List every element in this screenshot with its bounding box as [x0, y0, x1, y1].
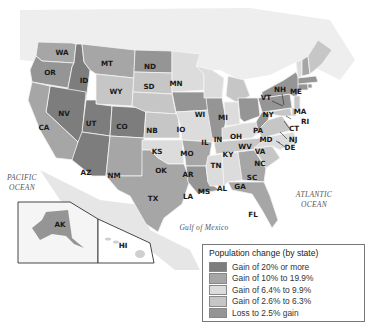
- label-CA: CA: [39, 123, 50, 132]
- label-PA: PA: [253, 126, 264, 135]
- label-LA: LA: [183, 192, 194, 201]
- pacific-ocean-line2: OCEAN: [9, 183, 36, 192]
- label-OR: OR: [44, 68, 56, 77]
- label-TX: TX: [148, 194, 159, 203]
- atlantic-ocean-line2: OCEAN: [301, 200, 328, 209]
- label-AZ: AZ: [81, 168, 92, 177]
- legend-label: Gain of 20% or more: [232, 262, 309, 272]
- label-OH: OH: [230, 132, 242, 141]
- label-IN: IN: [214, 135, 223, 144]
- label-TN: TN: [211, 161, 222, 170]
- label-KY: KY: [223, 150, 235, 159]
- label-WV: WV: [238, 142, 252, 151]
- label-OK: OK: [155, 166, 167, 175]
- label-AK: AK: [54, 220, 66, 229]
- label-MA: MA: [294, 107, 307, 116]
- label-MO: MO: [180, 149, 193, 158]
- label-IL: IL: [201, 138, 209, 147]
- label-MS: MS: [198, 187, 210, 196]
- legend-item: Gain of 6.4% to 9.9%: [209, 284, 358, 296]
- legend-title: Population change (by state): [209, 248, 358, 258]
- legend-swatch: [209, 262, 227, 273]
- state-MS[interactable]: [206, 154, 224, 186]
- label-CO: CO: [116, 122, 127, 131]
- label-IO: IO: [177, 125, 186, 134]
- label-ND: ND: [144, 62, 156, 71]
- label-ID: ID: [80, 76, 89, 85]
- label-MD: MD: [259, 135, 272, 144]
- legend-swatch: [209, 273, 227, 284]
- label-SD: SD: [143, 82, 154, 91]
- label-MI: MI: [218, 113, 228, 122]
- legend-label: Gain of 10% to 19.9%: [232, 273, 313, 283]
- legend-label: Gain of 6.4% to 9.9%: [232, 285, 311, 295]
- label-NM: NM: [107, 171, 120, 180]
- state-MA[interactable]: [298, 76, 318, 84]
- label-NY: NY: [262, 110, 274, 119]
- legend-swatch: [209, 296, 227, 307]
- legend-item: Loss to 2.5% gain: [209, 307, 358, 319]
- label-UT: UT: [86, 119, 97, 128]
- gulf-of-mexico-label: Gulf of Mexico: [179, 223, 228, 232]
- legend-swatch: [209, 285, 227, 296]
- label-DE: DE: [285, 143, 296, 152]
- label-CT: CT: [289, 124, 299, 133]
- label-KS: KS: [152, 147, 163, 156]
- label-WY: WY: [109, 87, 123, 96]
- label-MN: MN: [169, 79, 182, 88]
- label-MT: MT: [101, 59, 113, 68]
- legend-label: Gain of 2.6% to 6.3%: [232, 296, 311, 306]
- label-HI: HI: [119, 241, 128, 250]
- label-NH: NH: [274, 85, 286, 94]
- label-VA: VA: [255, 147, 266, 156]
- atlantic-ocean-line1: ATLANTIC: [295, 190, 333, 199]
- state-RI[interactable]: [308, 84, 312, 88]
- label-ME: ME: [290, 87, 302, 96]
- label-FL: FL: [248, 210, 258, 219]
- label-WI: WI: [195, 110, 206, 119]
- pacific-ocean-line1: PACIFIC: [6, 173, 38, 182]
- label-WA: WA: [55, 48, 69, 57]
- legend-item: Gain of 20% or more: [209, 261, 358, 273]
- legend: Population change (by state) Gain of 20%…: [202, 244, 365, 322]
- legend-label: Loss to 2.5% gain: [232, 308, 299, 318]
- label-GA: GA: [234, 182, 246, 191]
- legend-swatch: [209, 308, 227, 319]
- state-OH[interactable]: [238, 98, 260, 122]
- label-VT: VT: [261, 93, 272, 102]
- legend-item: Gain of 10% to 19.9%: [209, 273, 358, 285]
- label-AL: AL: [217, 184, 228, 193]
- label-NB: NB: [146, 126, 158, 135]
- label-NV: NV: [58, 109, 70, 118]
- label-NC: NC: [254, 159, 265, 168]
- label-AR: AR: [182, 170, 194, 179]
- label-SC: SC: [247, 173, 257, 182]
- state-UT[interactable]: [82, 100, 112, 136]
- legend-item: Gain of 2.6% to 6.3%: [209, 296, 358, 308]
- label-RI: RI: [301, 117, 310, 126]
- state-NM[interactable]: [106, 136, 144, 176]
